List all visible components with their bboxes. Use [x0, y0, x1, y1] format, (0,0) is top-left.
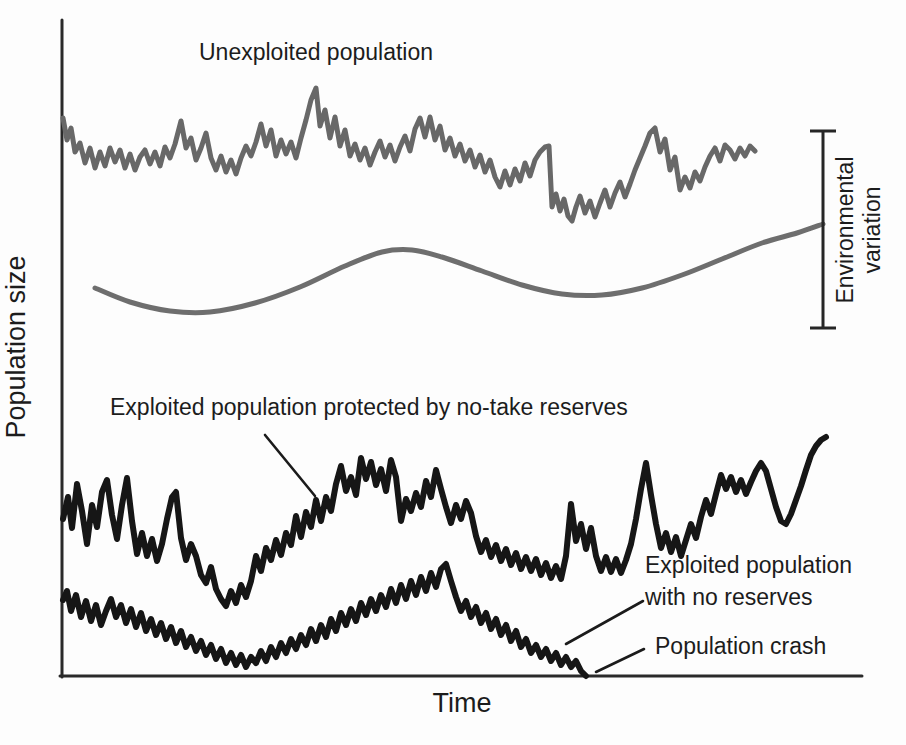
no-reserves-line [63, 564, 586, 676]
protected-population-label: Exploited population protected by no-tak… [110, 394, 628, 421]
crash-leader-line [596, 649, 644, 672]
no-reserves-label-line2: with no reserves [645, 581, 852, 613]
no-reserves-leader-line [566, 601, 643, 644]
population-crash-label: Population crash [655, 633, 826, 660]
figure-population-dynamics: Unexploited population Exploited populat… [0, 0, 906, 745]
environmental-variation-label: Environmental variation [832, 156, 886, 303]
protected-leader-line [265, 435, 315, 496]
no-reserves-population-label: Exploited population with no reserves [645, 549, 852, 613]
no-reserves-label-line1: Exploited population [645, 549, 852, 581]
y-axis-title: Population size [1, 255, 32, 438]
x-axis-title: Time [433, 688, 492, 719]
unexploited-population-label: Unexploited population [199, 39, 433, 66]
environmental-variation-label-line2: variation [859, 156, 886, 303]
unexploited-line [63, 88, 755, 221]
env-variation-curve [95, 224, 823, 313]
environmental-variation-label-line1: Environmental [832, 156, 859, 303]
